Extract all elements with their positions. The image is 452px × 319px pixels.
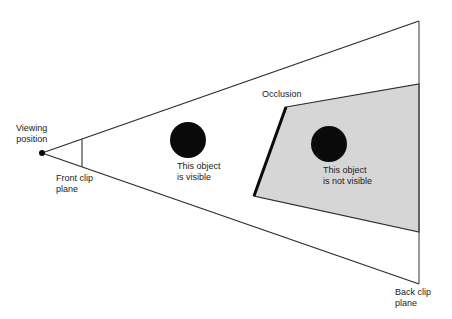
front-clip-plane-label-line1: Front clip bbox=[56, 173, 93, 184]
frustum-diagram bbox=[0, 0, 452, 319]
front-clip-plane-label-line2: plane bbox=[56, 184, 93, 195]
occlusion-label-text: Occlusion bbox=[262, 89, 302, 100]
back-clip-plane-label-line1: Back clip bbox=[395, 287, 431, 298]
hidden-object-label: This object is not visible bbox=[323, 165, 372, 187]
back-clip-plane-label-line2: plane bbox=[395, 298, 431, 309]
back-clip-plane-label: Back clip plane bbox=[395, 287, 431, 309]
viewing-position-label-line2: position bbox=[16, 134, 47, 145]
viewing-position-dot bbox=[39, 150, 45, 156]
front-clip-plane-label: Front clip plane bbox=[56, 173, 93, 195]
visible-object-label: This object is visible bbox=[177, 161, 221, 183]
hidden-object bbox=[311, 126, 347, 162]
visible-object bbox=[170, 122, 206, 158]
hidden-object-label-line1: This object bbox=[323, 165, 372, 176]
viewing-position-label-line1: Viewing bbox=[16, 123, 47, 134]
hidden-object-label-line2: is not visible bbox=[323, 176, 372, 187]
occlusion-label: Occlusion bbox=[262, 89, 302, 100]
visible-object-label-line1: This object bbox=[177, 161, 221, 172]
viewing-position-label: Viewing position bbox=[16, 123, 47, 145]
visible-object-label-line2: is visible bbox=[177, 172, 221, 183]
